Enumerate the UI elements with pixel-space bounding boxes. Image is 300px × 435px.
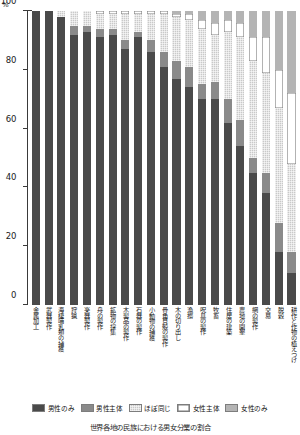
bar-segment: [134, 37, 142, 305]
bar-segment: [160, 14, 168, 52]
bar-segment: [70, 35, 78, 305]
bar-segment: [287, 93, 295, 164]
legend-swatch-icon: [81, 404, 94, 412]
bar-segment: [224, 32, 232, 100]
stacked-bar[interactable]: [185, 11, 193, 305]
legend-item[interactable]: 男性主体: [81, 403, 123, 413]
stacked-bar[interactable]: [70, 11, 78, 305]
stacked-bar[interactable]: [275, 11, 283, 305]
x-axis-label-slot: 小動物の捕獲: [145, 307, 158, 399]
bar-slot: [145, 11, 158, 305]
legend-item[interactable]: ほぼ同じ: [129, 403, 171, 413]
x-axis-tick-label: 脱穀: [277, 307, 283, 399]
y-axis-tick: 20: [23, 245, 28, 246]
legend-swatch-icon: [129, 404, 142, 412]
stacked-bar[interactable]: [160, 11, 168, 305]
stacked-bar[interactable]: [287, 11, 295, 305]
x-axis-tick-label: 楽器製作: [83, 307, 89, 399]
x-axis-label-slot: 楽器製作: [80, 307, 93, 399]
x-axis-label-slot: 石器の製作: [132, 307, 145, 399]
x-axis-tick-label: 石器の製作: [135, 307, 141, 399]
bar-segment: [224, 123, 232, 305]
x-axis-tick-label: 農地の開墾: [238, 307, 244, 399]
stacked-bar[interactable]: [96, 11, 104, 305]
y-axis-tick-label: 40: [6, 172, 16, 182]
y-axis-tick-label: 80: [6, 55, 16, 65]
stacked-bar[interactable]: [262, 11, 270, 305]
bar-segment: [249, 173, 257, 305]
bar-segment: [287, 164, 295, 252]
x-axis-tick-label: 木の切り出し: [174, 307, 180, 399]
x-axis-tick-label: 呪具の製作: [200, 307, 206, 399]
y-axis-tick-label: 0: [11, 290, 16, 300]
bar-segment: [198, 29, 206, 85]
x-axis-label-slot: 武器製作: [41, 307, 54, 399]
bar-slot: [93, 11, 106, 305]
stacked-bar[interactable]: [134, 11, 142, 305]
bar-slot: [170, 11, 183, 305]
stacked-bar[interactable]: [109, 11, 117, 305]
stacked-bar[interactable]: [147, 11, 155, 305]
stacked-bar[interactable]: [32, 11, 40, 305]
bar-segment: [249, 37, 257, 61]
x-axis-tick-label: 牧畜: [212, 307, 218, 399]
x-axis-tick-label: 交易: [264, 307, 270, 399]
stacked-bar[interactable]: [236, 11, 244, 305]
bar-segment: [262, 193, 270, 305]
bar-segment: [275, 223, 283, 252]
legend-item[interactable]: 女性主体: [177, 403, 219, 413]
stacked-bar[interactable]: [57, 11, 65, 305]
legend-swatch-icon: [177, 404, 190, 412]
bar-segment: [275, 252, 283, 305]
bar-segment: [70, 11, 78, 26]
bar-slot: [119, 11, 132, 305]
x-axis-label-slot: 海棲哺乳類の捕獲: [54, 307, 67, 399]
bar-slot: [132, 11, 145, 305]
x-axis-label-slot: 金属加工: [29, 307, 42, 399]
bar-slot: [260, 11, 273, 305]
bar-segment: [224, 99, 232, 123]
y-axis-tick: 100: [23, 10, 28, 11]
bar-segment: [109, 35, 117, 305]
bar-segment: [160, 67, 168, 305]
x-axis-label-slot: 耕作と作物の植えつけ: [287, 307, 300, 399]
legend-item[interactable]: 男性のみ: [32, 403, 74, 413]
bar-segment: [211, 99, 219, 305]
bar-slot: [247, 11, 260, 305]
y-axis-tick: 0: [23, 304, 28, 305]
bar-segment: [211, 11, 219, 23]
stacked-bar[interactable]: [249, 11, 257, 305]
figure-caption: 世界各地の民族における男女分業の割合: [0, 421, 300, 432]
x-axis-label-slot: 脱穀: [274, 307, 287, 399]
bar-segment: [147, 52, 155, 305]
bar-segment: [198, 11, 206, 20]
x-axis-tick-label: 木製品の製作: [122, 307, 128, 399]
bar-segment: [147, 40, 155, 52]
stacked-bar[interactable]: [121, 11, 129, 305]
stacked-bar[interactable]: [45, 11, 53, 305]
bar-segment: [83, 11, 91, 26]
stacked-bar[interactable]: [172, 11, 180, 305]
stacked-bar[interactable]: [211, 11, 219, 305]
x-axis-label-slot: 交易: [261, 307, 274, 399]
bar-slot: [234, 11, 247, 305]
bar-segment: [121, 49, 129, 305]
bar-segment: [121, 40, 129, 49]
stacked-bar[interactable]: [83, 11, 91, 305]
y-axis-tick: 80: [23, 69, 28, 70]
bar-segment: [83, 32, 91, 305]
stacked-bar[interactable]: [224, 11, 232, 305]
x-axis-tick-label: 住居の建築: [225, 307, 231, 399]
bar-segment: [172, 17, 180, 61]
bar-segment: [262, 37, 270, 72]
x-axis-tick-label: 狩猟: [71, 307, 77, 399]
bar-slot: [208, 11, 221, 305]
legend-item[interactable]: 女性のみ: [225, 403, 267, 413]
y-axis-tick: 40: [23, 186, 28, 187]
bar-slot: [30, 11, 43, 305]
x-axis-label-slot: 舟の製作: [93, 307, 106, 399]
stacked-bar[interactable]: [198, 11, 206, 305]
x-axis-tick-label: 鉱物の採集: [109, 307, 115, 399]
legend-label: ほぼ同じ: [144, 403, 171, 413]
bar-segment: [96, 14, 104, 29]
